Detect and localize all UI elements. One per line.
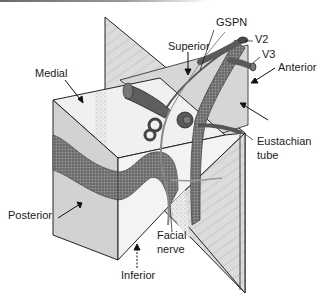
label-v3: V3 <box>262 48 275 60</box>
label-gspn: GSPN <box>216 16 247 28</box>
label-medial: Medial <box>35 67 67 79</box>
label-facial-1: Facial <box>157 229 186 241</box>
label-posterior: Posterior <box>8 209 52 221</box>
label-eustachian-2: tube <box>257 149 278 161</box>
label-eustachian-1: Eustachian <box>257 135 311 147</box>
label-facial-2: nerve <box>157 243 185 255</box>
label-anterior: Anterior <box>278 61 317 73</box>
label-v2: V2 <box>255 33 268 45</box>
label-superior: Superior <box>168 40 210 52</box>
label-inferior: Inferior <box>121 269 155 281</box>
